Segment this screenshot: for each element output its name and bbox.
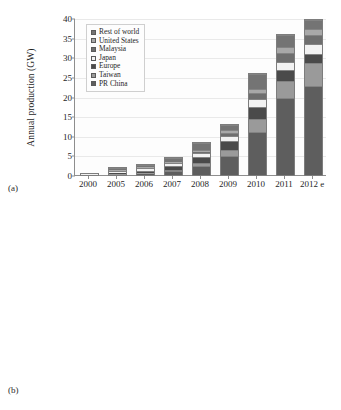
x-axis-label: 2010 [247, 179, 265, 189]
y-axis-tickmark [72, 176, 75, 177]
legend-swatch-icon [91, 81, 96, 86]
bar-segment [305, 63, 322, 86]
bar-segment [305, 20, 322, 28]
x-axis-tickmark [312, 176, 313, 179]
y-axis-tickmark [72, 136, 75, 137]
x-axis-tickmark [200, 176, 201, 179]
bar-segment [305, 35, 322, 44]
bar-segment [249, 132, 266, 175]
y-axis-tick: 15 [63, 112, 72, 122]
x-axis-tickmark [256, 176, 257, 179]
y-axis-tickmark [72, 58, 75, 59]
x-axis-label: 2007 [163, 179, 181, 189]
y-axis-tick: 35 [63, 34, 72, 44]
bar-segment [305, 54, 322, 63]
x-axis-tickmark [116, 176, 117, 179]
y-axis-tickmark [72, 19, 75, 20]
bar-2010 [249, 74, 266, 175]
x-axis-label: 2009 [219, 179, 237, 189]
bar-segment [165, 171, 182, 175]
y-axis-tick: 40 [63, 14, 72, 24]
bar-segment [249, 119, 266, 132]
y-axis-tickmark [72, 77, 75, 78]
x-axis-label: 2006 [135, 179, 153, 189]
x-axis-label: 2008 [191, 179, 209, 189]
bar-segment [193, 143, 210, 150]
bar-segment [305, 86, 322, 175]
x-axis-tickmark [172, 176, 173, 179]
figure-panel-a: (a) Annual production (GW) 0510152025303… [0, 0, 341, 205]
bar-2011 [277, 35, 294, 176]
y-axis-tick: 25 [63, 73, 72, 83]
bar-segment [137, 174, 154, 175]
y-axis-tickmark [72, 38, 75, 39]
panel-a-label: (a) [8, 183, 18, 193]
legend-item: PR China [91, 80, 139, 89]
legend-swatch-icon [91, 73, 96, 78]
y-axis-tickmark [72, 97, 75, 98]
panel-b-label: (b) [8, 385, 19, 395]
bar-segment [193, 166, 210, 175]
x-axis-tickmark [88, 176, 89, 179]
bar-2009 [221, 125, 238, 175]
legend-swatch-icon [91, 64, 96, 69]
x-axis-label: 2005 [107, 179, 125, 189]
legend-label: PR China [99, 80, 128, 89]
y-axis-tick: 10 [63, 132, 72, 142]
bar-segment [277, 62, 294, 70]
bar-segment [249, 99, 266, 107]
y-axis-label-a: Annual production (GW) [26, 19, 36, 176]
legend-swatch-icon [91, 56, 96, 61]
x-axis-label: 2000 [79, 179, 97, 189]
bar-2012-e [305, 20, 322, 175]
bar-2008 [193, 143, 210, 175]
y-axis-tick: 30 [63, 53, 72, 63]
bar-segment [277, 70, 294, 81]
bar-2006 [137, 165, 154, 175]
legend-a: Rest of worldUnited StatesMalaysiaJapanE… [86, 24, 145, 92]
bar-2005 [109, 168, 126, 175]
legend-swatch-icon [91, 38, 96, 43]
legend-swatch-icon [91, 30, 96, 35]
x-axis-tickmark [228, 176, 229, 179]
bar-segment [221, 141, 238, 149]
bar-segment [277, 98, 294, 175]
figure-panel-b: (b) Cumulative photovoltaic installation… [0, 205, 341, 410]
bar-segment [249, 107, 266, 119]
y-axis-tick: 20 [63, 93, 72, 103]
x-axis-label: 2012 e [300, 179, 324, 189]
y-axis-tickmark [72, 117, 75, 118]
x-axis-tickmark [144, 176, 145, 179]
bar-segment [277, 81, 294, 98]
x-axis-label: 2011 [275, 179, 293, 189]
bar-segment [249, 74, 266, 89]
bar-segment [277, 35, 294, 48]
x-axis-tickmark [284, 176, 285, 179]
gridline [75, 19, 326, 20]
legend-swatch-icon [91, 47, 96, 52]
bar-2000 [81, 174, 98, 175]
bar-segment [277, 53, 294, 62]
y-axis-tickmark [72, 156, 75, 157]
bar-segment [305, 44, 322, 53]
bar-segment [221, 156, 238, 175]
bar-2007 [165, 158, 182, 175]
